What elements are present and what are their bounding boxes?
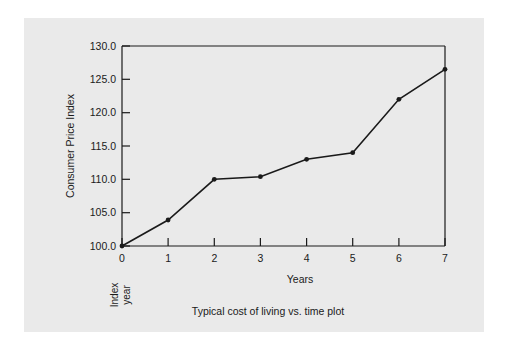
y-tick-label-120: 120.0 xyxy=(90,106,116,118)
x-tick-label-1: 1 xyxy=(165,252,171,264)
screenshot-root: 100.0 105.0 110.0 115.0 120.0 125.0 130.… xyxy=(0,0,508,348)
y-tick-label-125: 125.0 xyxy=(90,73,116,85)
x-tick-label-4: 4 xyxy=(304,252,310,264)
y-tick-label-115: 115.0 xyxy=(91,140,117,152)
y-tick-label-110: 110.0 xyxy=(91,173,117,185)
index-year-label-line1: Index xyxy=(109,283,120,307)
data-point-year-1 xyxy=(166,218,171,223)
x-tick-label-7: 7 xyxy=(442,252,448,264)
data-point-year-3 xyxy=(258,174,263,179)
x-tick-label-6: 6 xyxy=(396,252,402,264)
y-axis-tick-labels: 100.0 105.0 110.0 115.0 120.0 125.0 130.… xyxy=(90,40,116,252)
x-tick-label-2: 2 xyxy=(211,252,217,264)
figure-caption: Typical cost of living vs. time plot xyxy=(192,305,344,317)
x-tick-label-0: 0 xyxy=(119,252,125,264)
x-tick-label-3: 3 xyxy=(257,252,263,264)
index-year-label-line2: year xyxy=(121,285,132,305)
data-point-year-0 xyxy=(120,244,125,249)
y-tick-label-130: 130.0 xyxy=(90,40,116,52)
data-point-markers xyxy=(120,67,448,249)
x-axis-tick-labels: 0 1 2 3 4 5 6 7 xyxy=(119,252,448,264)
data-point-year-4 xyxy=(304,157,309,162)
x-axis-ticks xyxy=(122,238,445,246)
plot-frame xyxy=(122,46,445,246)
line-chart: 100.0 105.0 110.0 115.0 120.0 125.0 130.… xyxy=(0,0,508,348)
data-point-year-7 xyxy=(443,67,448,72)
x-axis-title: Years xyxy=(287,273,313,285)
y-tick-label-105: 105.0 xyxy=(90,206,116,218)
y-axis-title: Consumer Price Index xyxy=(64,93,76,198)
data-point-year-2 xyxy=(212,177,217,182)
data-point-year-6 xyxy=(397,97,402,102)
y-axis-ticks xyxy=(122,46,130,246)
x-tick-label-5: 5 xyxy=(350,252,356,264)
y-tick-label-100: 100.0 xyxy=(90,240,116,252)
data-point-year-5 xyxy=(350,150,355,155)
data-line-series-cpi xyxy=(122,69,445,246)
